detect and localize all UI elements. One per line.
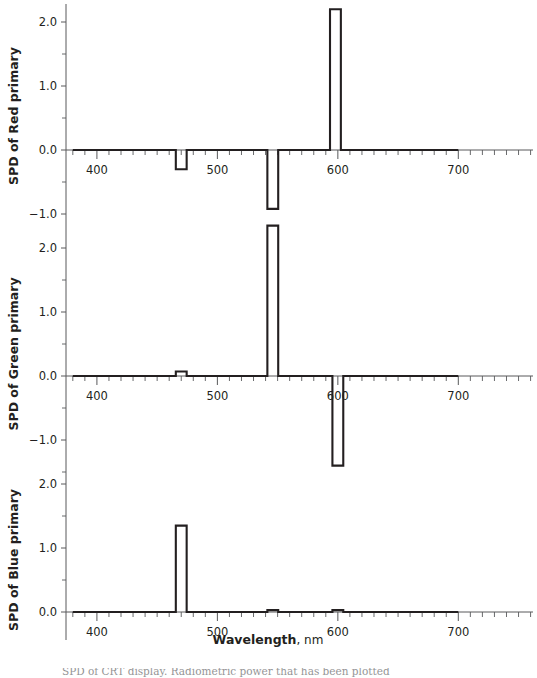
x-tick-label: 400 (86, 389, 108, 403)
x-tick-label: 600 (327, 625, 349, 639)
y-tick-label: −1.0 (29, 433, 57, 447)
x-axis-title-units: , nm (296, 633, 323, 647)
spd-trace-green (73, 226, 458, 466)
x-tick-label: 400 (86, 163, 108, 177)
y-tick-label: 0.0 (39, 605, 57, 619)
chart-svg-blue: 2.01.00.0400500600700SPD of Blue primary… (0, 480, 537, 652)
y-tick-label: 1.0 (39, 305, 57, 319)
x-tick-label: 700 (447, 625, 469, 639)
x-tick-label: 600 (327, 163, 349, 177)
y-tick-label: 2.0 (39, 477, 57, 491)
y-axis-label-green: SPD of Green primary (6, 277, 21, 430)
figure-caption-text: SPD of CRT display. Radiometric power th… (62, 668, 532, 677)
x-tick-label: 500 (206, 389, 228, 403)
chart-svg-green: 2.01.00.0−1.0400500600700SPD of Green pr… (0, 228, 537, 480)
x-tick-label: 500 (206, 163, 228, 177)
y-tick-label: 0.0 (39, 369, 57, 383)
y-axis-label-red: SPD of Red primary (6, 47, 21, 185)
x-tick-label: 700 (447, 389, 469, 403)
spd-trace-blue (73, 526, 458, 612)
chart-panel-blue: 2.01.00.0400500600700SPD of Blue primary… (0, 480, 537, 652)
y-tick-label: 2.0 (39, 15, 57, 29)
x-axis-title: Wavelength, nm (213, 632, 324, 647)
y-tick-label: 0.0 (39, 143, 57, 157)
x-axis-title-bold: Wavelength (213, 632, 297, 647)
chart-panel-red: 2.01.00.0−1.0400500600700SPD of Red prim… (0, 0, 537, 228)
chart-panel-green: 2.01.00.0−1.0400500600700SPD of Green pr… (0, 228, 537, 480)
x-tick-label: 400 (86, 625, 108, 639)
y-tick-label: 1.0 (39, 79, 57, 93)
figure-caption-clipped: SPD of CRT display. Radiometric power th… (0, 668, 537, 678)
y-tick-label: 2.0 (39, 241, 57, 255)
x-tick-label: 600 (327, 389, 349, 403)
x-tick-label: 700 (447, 163, 469, 177)
chart-svg-red: 2.01.00.0−1.0400500600700SPD of Red prim… (0, 0, 537, 228)
y-tick-label: 1.0 (39, 541, 57, 555)
y-axis-label-blue: SPD of Blue primary (6, 489, 21, 631)
spd-figure: 2.01.00.0−1.0400500600700SPD of Red prim… (0, 0, 537, 678)
y-tick-label: −1.0 (29, 207, 57, 221)
spd-trace-red (73, 9, 458, 209)
